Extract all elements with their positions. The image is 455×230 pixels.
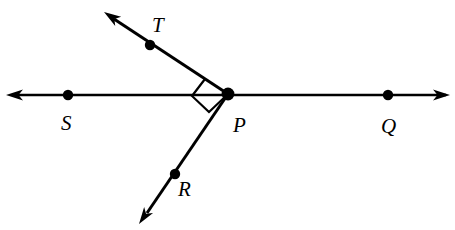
geometry-canvas: T S P Q R bbox=[0, 0, 455, 230]
point-dot-Q bbox=[383, 90, 393, 100]
point-label-T: T bbox=[152, 13, 165, 37]
geometry-diagram: T S P Q R bbox=[0, 0, 455, 230]
point-dot-T bbox=[145, 40, 155, 50]
point-label-S: S bbox=[61, 111, 72, 135]
point-dot-S bbox=[63, 90, 73, 100]
point-label-R: R bbox=[177, 177, 191, 201]
point-label-Q: Q bbox=[381, 114, 396, 138]
point-dot-P bbox=[222, 88, 235, 101]
point-label-P: P bbox=[232, 113, 246, 137]
